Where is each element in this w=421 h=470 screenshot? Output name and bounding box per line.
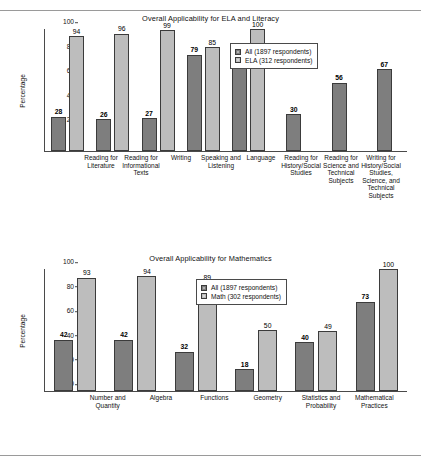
x-axis-tick-label: Reading for Literature xyxy=(81,151,121,200)
bar-group: 2894 xyxy=(45,29,90,151)
bar: 27 xyxy=(142,118,157,151)
bar-value-label: 100 xyxy=(383,261,394,268)
top-divider-rule xyxy=(0,10,421,11)
bar-value-label: 100 xyxy=(252,21,263,28)
x-axis-labels-math: Number and QuantityAlgebraFunctionsGeome… xyxy=(81,391,401,409)
bar: 73 xyxy=(356,302,375,391)
bar-value-label: 28 xyxy=(55,108,63,115)
bar-groups-ela: 289426962799798582100305667 xyxy=(45,29,407,151)
x-axis-tick-label: Reading for Informational Texts xyxy=(121,151,161,200)
legend-swatch-ela-icon xyxy=(235,57,241,63)
bar-group: 73100 xyxy=(347,269,407,391)
bar-group: 2696 xyxy=(90,29,135,151)
bar-value-label: 96 xyxy=(118,25,126,32)
legend-label-math: Math (302 respondents) xyxy=(211,293,281,300)
bar-group: 4049 xyxy=(286,269,346,391)
x-axis-tick-label: Language xyxy=(241,151,281,200)
bar-group: 67 xyxy=(362,29,407,151)
bar-value-label: 67 xyxy=(381,61,389,68)
bar: 42 xyxy=(54,340,73,391)
bar: 85 xyxy=(205,47,220,151)
plot-frame-ela: 020406080100 289426962799798582100305667… xyxy=(44,29,407,152)
legend-item-all: All (1897 respondents) xyxy=(201,284,281,291)
bar-value-label: 27 xyxy=(145,110,153,117)
x-axis-tick-label: Functions xyxy=(188,391,241,409)
bar-group: 4294 xyxy=(105,269,165,391)
bar: 49 xyxy=(318,331,337,391)
bar-group: 4293 xyxy=(45,269,105,391)
bar: 50 xyxy=(258,330,277,391)
legend-math: All (1897 respondents) Math (302 respond… xyxy=(196,279,287,305)
bar: 26 xyxy=(96,119,111,151)
bar: 42 xyxy=(114,340,133,391)
bar-value-label: 99 xyxy=(163,22,171,29)
bar-value-label: 30 xyxy=(290,106,298,113)
bar: 94 xyxy=(69,36,84,151)
x-axis-labels-ela: Reading for LiteratureReading for Inform… xyxy=(81,151,401,200)
y-tick-mark-icon xyxy=(75,22,78,23)
bar: 67 xyxy=(377,69,392,151)
bar-value-label: 56 xyxy=(335,74,343,81)
plot-area-ela: Percentage 020406080100 2894269627997985… xyxy=(8,29,413,152)
legend-label-ela: ELA (312 respondents) xyxy=(245,57,312,64)
chart-mathematics: Overall Applicability for Mathematics Pe… xyxy=(0,254,421,452)
bar: 100 xyxy=(379,269,398,391)
y-axis-label-ela: Percentage xyxy=(19,74,26,108)
bar: 79 xyxy=(187,55,202,151)
bar: 94 xyxy=(137,276,156,391)
bar: 99 xyxy=(160,30,175,151)
bar: 32 xyxy=(175,352,194,391)
legend-label-all: All (1897 respondents) xyxy=(245,48,311,55)
legend-item-math: Math (302 respondents) xyxy=(201,293,281,300)
x-axis-tick-label: Speaking and Listening xyxy=(201,151,241,200)
bar: 56 xyxy=(332,83,347,151)
bar: 18 xyxy=(235,369,254,391)
y-axis-label-math: Percentage xyxy=(19,314,26,348)
bar-value-label: 42 xyxy=(120,331,128,338)
bar-value-label: 94 xyxy=(143,268,151,275)
bar-value-label: 94 xyxy=(73,28,81,35)
x-axis-tick-label: Writing xyxy=(161,151,201,200)
x-axis-tick-label: Writing for History/Social Studies, Scie… xyxy=(361,151,401,200)
bar: 40 xyxy=(295,342,314,391)
bar-value-label: 85 xyxy=(209,39,217,46)
y-tick-100-ela: 100 xyxy=(63,19,74,26)
bar: 96 xyxy=(114,34,129,151)
x-axis-tick-label: Number and Quantity xyxy=(81,391,134,409)
chart-ela-and-literacy: Overall Applicability for ELA and Litera… xyxy=(0,14,421,244)
plot-area-math: Percentage 020406080100 4293429432891850… xyxy=(8,269,413,392)
bar-value-label: 42 xyxy=(60,331,68,338)
bar-group: 56 xyxy=(317,29,362,151)
bar-group: 7985 xyxy=(181,29,226,151)
figure-page: Overall Applicability for ELA and Litera… xyxy=(0,0,421,470)
legend-swatch-all-icon xyxy=(235,49,241,55)
x-axis-tick-label: Algebra xyxy=(134,391,187,409)
bar-value-label: 50 xyxy=(264,322,272,329)
bar-value-label: 40 xyxy=(301,334,309,341)
bar-group: 2799 xyxy=(136,29,181,151)
legend-label-all: All (1897 respondents) xyxy=(211,284,277,291)
x-axis-tick-label: Mathematical Practices xyxy=(348,391,401,409)
y-tick-100-math: 100 xyxy=(63,259,74,266)
x-axis-tick-label: Reading for History/Social Studies xyxy=(281,151,321,200)
y-tick-mark-icon xyxy=(75,262,78,263)
bar: 28 xyxy=(51,117,66,151)
x-axis-tick-label: Geometry xyxy=(241,391,294,409)
legend-ela: All (1897 respondents) ELA (312 responde… xyxy=(230,43,318,69)
bar: 93 xyxy=(77,278,96,391)
bar-value-label: 73 xyxy=(362,293,370,300)
bar-value-label: 93 xyxy=(83,269,91,276)
bottom-divider-rule xyxy=(0,455,421,456)
bar-value-label: 79 xyxy=(191,46,199,53)
bar-value-label: 49 xyxy=(324,323,332,330)
legend-swatch-math-icon xyxy=(201,293,207,299)
bar-value-label: 26 xyxy=(100,111,108,118)
x-axis-tick-label: Statistics and Probability xyxy=(294,391,347,409)
legend-item-ela: ELA (312 respondents) xyxy=(235,57,312,64)
bar-value-label: 32 xyxy=(181,343,189,350)
bar: 30 xyxy=(286,114,301,151)
legend-swatch-all-icon xyxy=(201,285,207,291)
legend-item-all: All (1897 respondents) xyxy=(235,48,312,55)
bar-value-label: 18 xyxy=(241,361,249,368)
x-axis-tick-label: Reading for Science and Technical Subjec… xyxy=(321,151,361,200)
